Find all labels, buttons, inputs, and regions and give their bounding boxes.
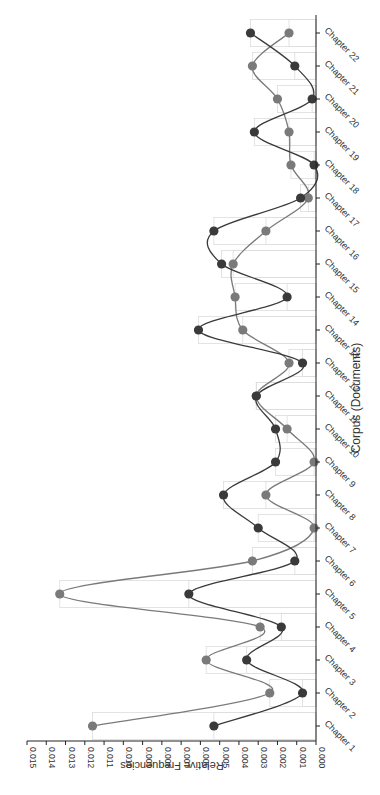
value-tick-label: 0.011 — [105, 747, 115, 768]
category-tick-label: Chapter 2 — [323, 685, 358, 720]
background-bar — [266, 482, 316, 509]
data-point — [261, 490, 270, 499]
data-point — [217, 259, 226, 268]
data-point — [229, 259, 238, 268]
data-point — [242, 655, 251, 664]
background-bar — [235, 284, 316, 311]
data-point — [248, 556, 257, 565]
data-point — [308, 94, 317, 103]
data-point — [284, 28, 293, 37]
axes: 0.0000.0010.0020.0030.0040.0050.0060.007… — [27, 15, 361, 769]
category-tick-label: Chapter 22 — [323, 25, 362, 64]
value-tick-label: 0.015 — [28, 747, 38, 769]
category-tick-label: Chapter 15 — [323, 256, 362, 295]
background-bar — [243, 317, 316, 344]
data-point — [290, 61, 299, 70]
category-tick-label: Chapter 20 — [323, 91, 362, 130]
background-bar — [214, 713, 316, 740]
series-line — [189, 33, 318, 726]
y-axis-title: Relative Frequencies — [120, 760, 224, 772]
data-point — [261, 226, 270, 235]
value-tick-label: 0.003 — [259, 747, 269, 769]
category-tick-label: Chapter 4 — [323, 619, 358, 654]
data-point — [254, 523, 263, 532]
data-point — [296, 193, 305, 202]
background-bar — [247, 647, 316, 674]
value-tick-label: 0.013 — [67, 747, 77, 769]
background-bar — [270, 680, 316, 707]
data-point — [238, 325, 247, 334]
rotated-line-chart: 0.0000.0010.0020.0030.0040.0050.0060.007… — [0, 0, 380, 795]
category-tick-label: Chapter 7 — [323, 520, 358, 555]
category-tick-label: Chapter 6 — [323, 553, 358, 588]
background-bar — [93, 713, 316, 740]
category-tick-label: Chapter 21 — [323, 58, 362, 97]
data-point — [252, 391, 261, 400]
background-bar — [281, 614, 316, 641]
data-point — [202, 655, 211, 664]
background-bar — [276, 416, 316, 443]
data-point — [284, 358, 293, 367]
background-bar — [260, 614, 316, 641]
data-point — [284, 127, 293, 136]
data-point — [283, 292, 292, 301]
data-point — [271, 457, 280, 466]
data-point — [248, 61, 257, 70]
data-point — [194, 325, 203, 334]
category-tick-label: Chapter 14 — [323, 289, 362, 328]
series-curves — [60, 33, 318, 726]
category-tick-label: Chapter 16 — [323, 223, 362, 262]
data-point — [55, 589, 64, 598]
data-point — [250, 127, 259, 136]
data-point — [286, 160, 295, 169]
value-tick-label: 0.014 — [47, 747, 57, 769]
background-bar — [266, 218, 316, 245]
series-line — [60, 33, 315, 726]
data-point — [88, 721, 97, 730]
series-points — [55, 28, 319, 730]
category-tick-label: Chapter 5 — [323, 586, 358, 621]
value-tick-label: 0.001 — [298, 747, 308, 769]
data-point — [298, 358, 307, 367]
data-point — [298, 688, 307, 697]
value-tick-label: 0.002 — [278, 747, 288, 769]
category-tick-label: Chapter 9 — [323, 454, 358, 489]
data-point — [256, 622, 265, 631]
data-point — [209, 226, 218, 235]
x-axis-title: Corpus (Documents) — [349, 343, 363, 454]
background-bar — [233, 251, 316, 278]
category-tick-label: Chapter 3 — [323, 652, 358, 687]
background-bar — [250, 20, 316, 47]
data-point — [273, 94, 282, 103]
data-point — [271, 424, 280, 433]
value-tick-label: 0.012 — [86, 747, 96, 769]
background-bars — [60, 20, 316, 740]
data-point — [219, 490, 228, 499]
data-point — [290, 556, 299, 565]
category-tick-label: Chapter 8 — [323, 487, 358, 522]
background-bar — [256, 383, 316, 410]
data-point — [265, 688, 274, 697]
background-bar — [256, 383, 316, 410]
data-point — [246, 28, 255, 37]
value-tick-label: 0.000 — [317, 747, 327, 769]
data-point — [230, 292, 239, 301]
category-tick-label: Chapter 17 — [323, 190, 362, 229]
value-tick-label: 0.004 — [240, 747, 250, 769]
data-point — [184, 589, 193, 598]
data-point — [283, 424, 292, 433]
data-point — [209, 721, 218, 730]
category-tick-label: Chapter 18 — [323, 157, 362, 196]
category-tick-label: Chapter 19 — [323, 124, 362, 163]
data-point — [277, 622, 286, 631]
